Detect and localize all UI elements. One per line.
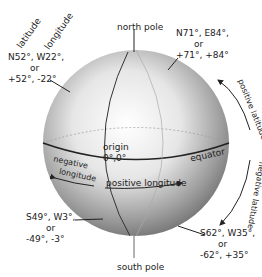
point-label-1: N52°, W22°,or+52°, -22° <box>8 52 64 85</box>
origin-label: origin0°,0° <box>103 142 129 164</box>
south-pole-label: south pole <box>117 262 164 273</box>
point-label-3: S49°, W3°,or-49°, -3° <box>26 212 75 245</box>
point-label-4: S62°, W35°,or-62°, +35° <box>200 228 255 261</box>
positive-longitude-label: positive longitude <box>106 178 187 189</box>
point-label-2: N71°, E84°,or+71°, +84° <box>176 28 229 61</box>
globe <box>43 50 229 236</box>
north-pole-label: north pole <box>117 22 163 33</box>
